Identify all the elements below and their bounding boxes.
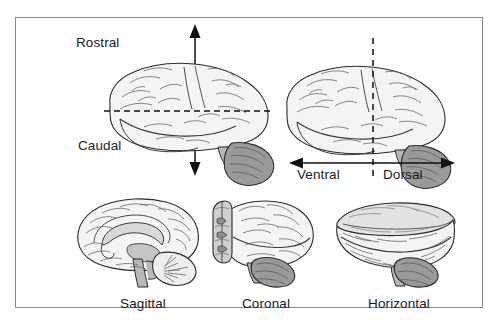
dorsal-label: Dorsal [383,168,423,182]
rostral-caudal-axis-panel: Rostral Caudal [76,18,291,186]
ventral-dorsal-diagram [261,28,476,188]
sagittal-section: Sagittal [64,193,214,303]
ventral-label: Ventral [297,168,340,182]
figure-frame: Rostral Caudal Ventral Dorsal [15,17,483,308]
coronal-brain-illustration [201,193,336,288]
ventral-dorsal-axis-panel: Ventral Dorsal [261,28,476,188]
caudal-label: Caudal [78,139,121,153]
coronal-section: Coronal [201,193,336,303]
horizontal-section: Horizontal [321,193,471,303]
sagittal-brain-illustration [64,193,214,288]
horizontal-brain-illustration [321,193,471,288]
rostral-label: Rostral [76,36,119,50]
horizontal-label: Horizontal [368,297,430,311]
brain-orientation-figure: Rostral Caudal Ventral Dorsal [0,0,499,320]
coronal-label: Coronal [242,297,290,311]
sagittal-label: Sagittal [120,297,166,311]
